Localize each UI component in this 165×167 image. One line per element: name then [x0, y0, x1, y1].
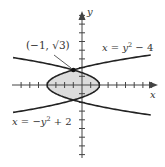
c2-eq: = − — [18, 116, 41, 127]
c1-eq: = — [108, 42, 123, 53]
x-axis-label: x — [150, 90, 156, 100]
y-axis-label: y — [87, 7, 93, 17]
graph-figure — [0, 0, 165, 167]
intersection-point — [71, 68, 75, 72]
axes — [12, 11, 158, 158]
c2-rest: + 2 — [51, 116, 72, 127]
curve-label-c2: x = −y2 + 2 — [12, 116, 72, 127]
x-axis-arrow-icon — [149, 82, 158, 89]
c1-rest: − 4 — [132, 42, 153, 53]
curve-label-c1: x = y2 − 4 — [102, 42, 153, 53]
intersection-point-label: (−1, √3) — [26, 40, 70, 51]
